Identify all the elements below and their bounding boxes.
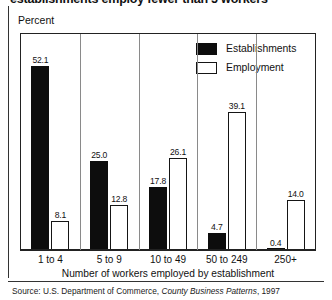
x-tick-label-1-to-4: 1 to 4 — [21, 254, 80, 265]
bar-value-label: 39.1 — [223, 101, 251, 111]
bar-value-label: 4.7 — [203, 222, 231, 232]
legend-label: Employment — [226, 62, 284, 73]
bar-establishments-5-to-9 — [90, 161, 108, 250]
legend-item-employment[interactable]: Employment — [196, 59, 296, 76]
bar-establishments-1-to-4 — [31, 66, 49, 250]
source-note: Source: U.S. Department of Commerce, Cou… — [12, 286, 280, 296]
bar-value-label: 17.8 — [144, 176, 172, 186]
source-publication: County Business Patterns — [161, 286, 256, 296]
legend-item-establishments[interactable]: Establishments — [196, 40, 296, 57]
bar-value-label: 14.0 — [282, 189, 310, 199]
group-separator — [80, 34, 81, 250]
legend-swatch-icon — [196, 43, 217, 55]
bar-value-label: 52.1 — [26, 55, 54, 65]
bar-establishments-50-to-249 — [208, 233, 226, 250]
bar-value-label: 26.1 — [164, 147, 192, 157]
bar-value-label: 12.8 — [105, 194, 133, 204]
x-axis-baseline — [20, 249, 316, 251]
group-separator — [256, 34, 257, 250]
chart-legend: EstablishmentsEmployment — [196, 40, 296, 78]
bar-employment-10-to-49 — [169, 158, 187, 250]
x-tick-label-50-to-249: 50 to 249 — [197, 254, 256, 265]
group-separator — [139, 34, 140, 250]
bar-value-label: 0.4 — [262, 238, 290, 248]
legend-label: Establishments — [226, 43, 296, 54]
chart-title: establishments employ fewer than 5 worke… — [10, 0, 332, 6]
source-prefix: Source: U.S. Department of Commerce, — [12, 286, 161, 296]
bar-employment-1-to-4 — [51, 221, 69, 250]
x-tick-label-5-to-9: 5 to 9 — [80, 254, 139, 265]
x-tick-label-10-to-49: 10 to 49 — [139, 254, 198, 265]
chart-figure: establishments employ fewer than 5 worke… — [0, 0, 332, 300]
bar-value-label: 25.0 — [85, 150, 113, 160]
bar-establishments-10-to-49 — [149, 187, 167, 250]
x-axis-title: Number of workers employed by establishm… — [20, 268, 316, 279]
bar-value-label: 8.1 — [46, 210, 74, 220]
y-axis-label: Percent — [18, 14, 54, 26]
bar-employment-5-to-9 — [110, 205, 128, 250]
source-divider — [8, 281, 324, 282]
x-tick-label-250+: 250+ — [256, 254, 315, 265]
page-left-rule — [8, 6, 9, 278]
legend-swatch-icon — [196, 62, 217, 74]
source-suffix: , 1997 — [257, 286, 280, 296]
group-separator — [197, 34, 198, 250]
